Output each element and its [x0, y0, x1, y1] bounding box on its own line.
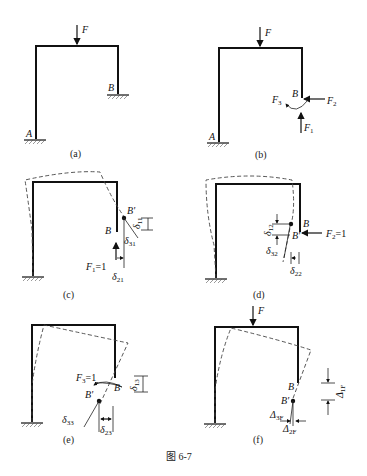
- unit-load-label: F1=1: [85, 261, 106, 274]
- caption-f: (f): [253, 434, 263, 446]
- delta-33-label: δ33: [62, 414, 74, 427]
- unit-load-label: F2=1: [325, 228, 346, 241]
- caption-c: (c): [63, 289, 74, 301]
- point-b-label: B: [108, 82, 114, 93]
- point-b-prime-label: B': [85, 389, 94, 400]
- reaction-f3-label: F3: [271, 94, 282, 107]
- point-a-label: A: [25, 128, 33, 139]
- panel-a: F A B (a): [24, 24, 129, 160]
- caption-a: (a): [70, 148, 81, 160]
- point-b-prime-label: B': [292, 230, 301, 241]
- delta-23-label: δ23: [100, 424, 112, 437]
- delta-12-label: δ12: [262, 224, 275, 236]
- load-label: F: [264, 27, 272, 38]
- point-b-label: B: [288, 381, 294, 392]
- point-b-label: B: [303, 218, 309, 229]
- point-a-label: A: [208, 131, 216, 142]
- load-label: F: [81, 24, 89, 35]
- reaction-f3-moment-icon: [286, 100, 308, 109]
- point-b-label: B: [114, 382, 120, 393]
- point-b-prime-label: B': [127, 205, 136, 216]
- delta-3f-label: Δ3F: [269, 409, 283, 422]
- unit-load-label: F3=1: [75, 372, 96, 385]
- deflected-shape-c: [25, 172, 125, 276]
- load-label: F: [257, 305, 265, 316]
- delta-11-label: δ11: [131, 217, 144, 229]
- fixed-support-a: [25, 140, 45, 144]
- delta-21-label: δ21: [112, 271, 124, 284]
- reaction-f1-label: F1: [303, 122, 314, 135]
- panel-c: B' B F1=1 δ21 δ31 δ11 (c): [22, 172, 153, 301]
- delta-31-label: δ31: [124, 235, 136, 248]
- panel-f: F B B' Δ3F Δ2F Δ1F (f): [204, 305, 347, 446]
- panel-d: B B' F2=1 δ12 δ32 δ22 (d): [205, 176, 346, 301]
- frame-d: [216, 184, 300, 278]
- figure-caption: 图 6-7: [166, 451, 192, 462]
- point-b-label: B: [105, 225, 111, 236]
- panel-e: F3=1 B B' δ33 δ23 δ13 (e): [21, 325, 148, 446]
- delta-1f-label: Δ1F: [334, 385, 347, 399]
- panel-b: F A B F2 F1 F3 (b): [207, 27, 337, 161]
- delta-2f-label: Δ2F: [282, 423, 296, 436]
- delta-22-label: δ22: [290, 265, 302, 278]
- frame-a: [36, 46, 118, 139]
- frame-b: [219, 48, 302, 142]
- delta-13-label: δ13: [128, 379, 141, 391]
- deflected-shape-f: [215, 328, 311, 423]
- caption-d: (d): [253, 289, 265, 301]
- deflected-shape-d: [206, 176, 294, 278]
- point-b-prime-label: B': [281, 395, 290, 406]
- delta-32-label: δ32: [266, 245, 278, 258]
- caption-e: (e): [63, 434, 74, 446]
- point-b-label: B: [292, 88, 298, 99]
- figure-6-7: F A B (a) F A B F2 F1 F3 (b): [0, 0, 367, 476]
- caption-b: (b): [255, 149, 267, 161]
- frame-f: [215, 327, 298, 423]
- reaction-f2-label: F2: [326, 95, 337, 108]
- frame-e: [32, 325, 115, 422]
